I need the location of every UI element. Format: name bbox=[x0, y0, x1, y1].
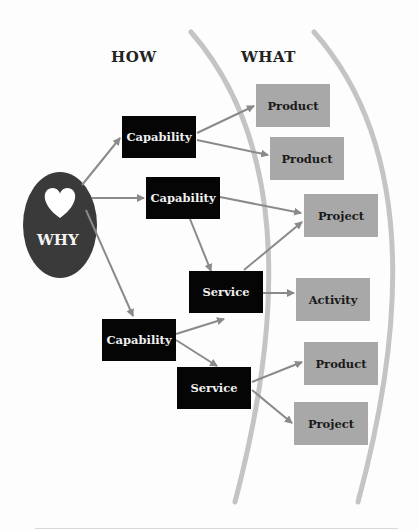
capability-node[interactable]: Capability bbox=[122, 116, 196, 158]
what-header: WHAT bbox=[241, 48, 296, 66]
project-node[interactable]: Project bbox=[294, 402, 368, 445]
arrow-cap1-to-prod2 bbox=[197, 140, 268, 155]
arrow-cap2-to-proj1 bbox=[220, 197, 301, 213]
service-node[interactable]: Service bbox=[189, 271, 263, 313]
arrow-cap3-to-svc2 bbox=[176, 340, 217, 366]
project-node[interactable]: Project bbox=[304, 194, 378, 237]
arrow-why-to-cap3 bbox=[86, 210, 133, 316]
service-node[interactable]: Service bbox=[177, 367, 251, 409]
why-label: WHY bbox=[37, 231, 79, 249]
capability-node[interactable]: Capability bbox=[146, 177, 220, 219]
arrow-cap3-to-svc1 bbox=[176, 319, 224, 334]
product-node[interactable]: Product bbox=[304, 342, 378, 385]
arrow-cap2-to-svc1 bbox=[190, 219, 211, 271]
why-oval bbox=[23, 172, 97, 278]
arrow-why-to-cap1 bbox=[82, 138, 120, 185]
bottom-divider bbox=[35, 528, 398, 529]
product-node[interactable]: Product bbox=[256, 84, 330, 127]
how-header: HOW bbox=[111, 48, 157, 66]
activity-node[interactable]: Activity bbox=[296, 278, 370, 321]
capability-node[interactable]: Capability bbox=[102, 319, 176, 361]
product-node[interactable]: Product bbox=[270, 137, 344, 180]
diagram-canvas bbox=[0, 0, 418, 530]
arrow-svc1-to-proj1 bbox=[244, 222, 302, 270]
